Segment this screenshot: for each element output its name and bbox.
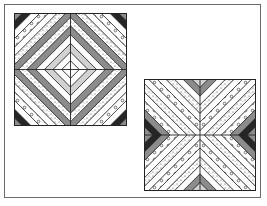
quilt-block-x-chevron [144,79,256,191]
quilt-block-concentric-diamond [14,13,127,126]
